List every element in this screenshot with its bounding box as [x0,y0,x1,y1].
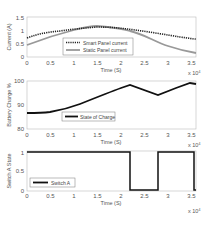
x-tick: 3 [166,60,170,66]
legend-soc-label: State of Charge [80,114,115,120]
x-tick: 3.5 [187,193,196,199]
x-tick: 0.5 [46,60,55,66]
x-tick: 1 [72,132,76,138]
x-axis-label: Time (S) [101,139,122,145]
x-tick: 2 [119,60,123,66]
legend-switch-label: Switch A [51,180,71,186]
y-tick: 0.5 [16,168,25,174]
x-tick: 2.5 [140,193,149,199]
x-tick: 3.5 [187,60,196,66]
x-tick: 0.5 [46,193,55,199]
y-axis-label: Switch A State [6,153,12,188]
y-tick: 1.5 [16,15,25,21]
y-tick: 1 [21,150,25,156]
x-tick: 1.5 [93,193,102,199]
x-tick: 2.5 [140,60,149,66]
x-tick: 1.5 [93,60,102,66]
y-axis-label: Battery Charge % [6,83,12,127]
x-tick: 1 [72,193,76,199]
battery-plot-frame [27,81,196,129]
current-plot: 0 0.5 1 1.5 0 0.5 1 1.5 2 2.5 3 3.5 Time… [6,15,200,77]
y-tick: 80 [17,126,24,132]
y-tick: 0 [21,54,25,60]
x-tick: 1 [72,60,76,66]
x-tick: 3 [166,193,170,199]
y-tick: 1 [21,28,25,34]
x-ticks: 0 0.5 1 1.5 2 2.5 3 3.5 [25,132,196,138]
x-tick: 0 [25,132,29,138]
x-tick: 2 [119,193,123,199]
legend-static-label: Static Panel current [83,47,127,53]
x-tick: 3 [166,132,170,138]
y-axis-label: Current (A) [6,23,12,50]
y-tick: 90 [17,102,24,108]
figure: 0 0.5 1 1.5 0 0.5 1 1.5 2 2.5 3 3.5 Time… [0,0,209,236]
current-legend: Smart Panel current Static Panel current [63,38,133,55]
x-tick: 2 [119,132,123,138]
x-tick: 0.5 [46,132,55,138]
x-exponent: x 104 [188,208,200,214]
x-exponent: x 104 [188,142,200,148]
y-tick: 0 [21,188,25,194]
switch-plot: 0 0.5 1 0 0.5 1 1.5 2 2.5 3 3.5 Time (S)… [6,150,200,214]
y-tick: 0.5 [16,41,25,47]
x-tick: 3.5 [187,132,196,138]
x-tick: 0 [25,193,29,199]
x-tick: 2.5 [140,132,149,138]
x-axis-label: Time (S) [101,200,122,206]
legend-smart-label: Smart Panel current [83,40,128,46]
x-exponent: x 104 [188,70,200,76]
x-ticks: 0 0.5 1 1.5 2 2.5 3 3.5 [25,60,196,66]
x-ticks: 0 0.5 1 1.5 2 2.5 3 3.5 [25,193,196,199]
x-axis-label: Time (S) [101,67,122,73]
x-tick: 1.5 [93,132,102,138]
battery-plot: 80 90 100 0 0.5 1 1.5 2 2.5 3 3.5 Time (… [6,78,200,148]
battery-legend: State of Charge [62,112,115,121]
x-tick: 0 [25,60,29,66]
y-tick: 100 [14,78,25,84]
switch-legend: Switch A [30,178,75,187]
